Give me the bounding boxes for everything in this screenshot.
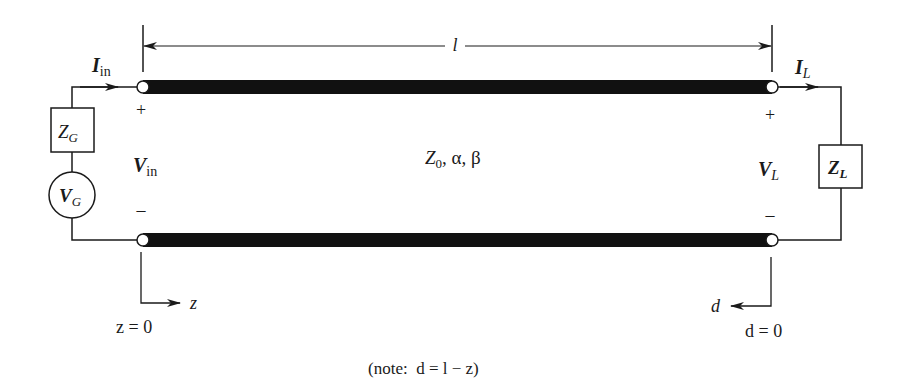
terminal-bottom-left — [137, 234, 149, 246]
d-origin-label: d = 0 — [745, 321, 782, 341]
load-bottom-wire — [778, 188, 841, 240]
load-voltage-label: VL — [758, 158, 779, 183]
d-axis-label: d — [711, 296, 721, 316]
terminal-top-left — [137, 81, 149, 93]
source-bottom-wire — [72, 218, 137, 240]
z-axis-arrow — [141, 252, 180, 303]
load-minus-sign: – — [765, 205, 776, 225]
terminal-bottom-right — [766, 234, 778, 246]
input-voltage-label: Vin — [133, 154, 157, 179]
z-axis-label: z — [189, 293, 197, 313]
relation-note: (note: d = l − z) — [368, 359, 479, 378]
input-plus-sign: + — [136, 100, 146, 120]
top-conductor — [143, 80, 772, 94]
input-current-label: Iin — [91, 54, 111, 79]
load-plus-sign: + — [765, 105, 775, 125]
z-origin-label: z = 0 — [116, 317, 152, 337]
load-current-label: IL — [794, 56, 811, 81]
load-top-wire — [778, 87, 841, 145]
length-dimension: l — [143, 25, 772, 72]
length-label: l — [452, 35, 457, 55]
d-axis-arrow — [731, 257, 771, 306]
d-axis-reference: d d = 0 — [711, 257, 782, 341]
terminal-top-right — [766, 81, 778, 93]
line-parameters-label: Z0, α, β — [425, 147, 481, 171]
bottom-conductor — [143, 233, 772, 247]
source-top-wire — [72, 87, 137, 108]
input-minus-sign: – — [136, 200, 147, 220]
z-axis-reference: z z = 0 — [116, 252, 197, 337]
transmission-line-diagram: l Iin ZG VG + Vin – Z0, α, β IL ZL + — [0, 0, 909, 381]
